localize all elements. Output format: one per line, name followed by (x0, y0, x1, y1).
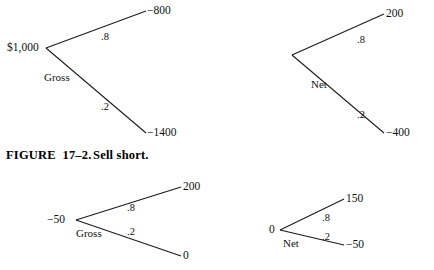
tree-gross-lower-root-label: −50 (47, 214, 65, 226)
tree-net-upper-probability-down: .2 (357, 110, 365, 121)
tree-gross-dollar-outcome-down: −1400 (147, 127, 177, 139)
tree-gross-lower-outcome-down: 0 (183, 250, 189, 262)
tree-gross-lower-outcome-up: 200 (183, 181, 200, 193)
tree-net-lower-outcome-up: 150 (346, 193, 363, 205)
tree-net-upper-branch-set-label: Net (311, 79, 327, 90)
branch-line-down (292, 55, 384, 133)
tree-gross-lower-branches (76, 187, 181, 256)
tree-gross-lower-probability-down: .2 (127, 227, 135, 238)
tree-net-upper-outcome-down: −400 (386, 127, 410, 139)
branch-line-down (46, 48, 146, 133)
tree-gross-dollar-probability-down: .2 (101, 102, 109, 113)
tree-gross-dollar-outcome-up: −800 (147, 5, 171, 17)
figure-page: $1,000 Gross .8 .2 −800 −1400 Net .8 .2 … (0, 0, 434, 270)
tree-gross-dollar-root-label: $1,000 (7, 42, 39, 54)
tree-net-lower-branch-set-label: Net (283, 238, 299, 249)
decision-tree-lines (0, 0, 434, 270)
tree-net-lower-root-label: 0 (269, 224, 275, 236)
branch-line-up (46, 11, 146, 48)
tree-net-lower-probability-up: .8 (322, 213, 330, 224)
branch-line-up (280, 199, 344, 230)
tree-net-upper-probability-up: .8 (357, 35, 365, 46)
tree-net-upper-outcome-up: 200 (386, 8, 403, 20)
tree-gross-lower-branch-set-label: Gross (76, 228, 102, 239)
tree-gross-lower-probability-up: .8 (127, 203, 135, 214)
figure-caption-title: Sell short. (93, 149, 149, 162)
tree-gross-dollar-probability-up: .8 (101, 32, 109, 43)
tree-net-lower-probability-down: .2 (322, 232, 330, 243)
branch-line-up (292, 14, 384, 55)
tree-net-lower-outcome-down: −50 (346, 239, 364, 251)
tree-gross-dollar-branch-set-label: Gross (44, 72, 70, 83)
tree-net-upper-branches (292, 14, 384, 133)
figure-caption-number: FIGURE 17–2. (6, 149, 92, 162)
